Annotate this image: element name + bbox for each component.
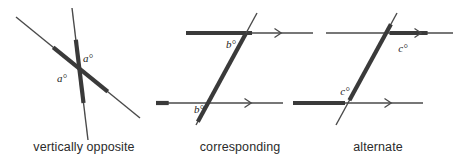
caption-vertically-opposite: vertically opposite <box>0 140 174 154</box>
panel-alternate: c°c° <box>293 13 453 125</box>
panel-corresponding: b°b° <box>156 13 313 125</box>
corresponding-angle-label-1: b° <box>226 38 237 50</box>
vertically-opposite-angle-label-1: a° <box>83 52 94 64</box>
caption-alternate: alternate <box>288 140 468 154</box>
diagram-canvas: a°a°b°b°c°c° <box>0 0 468 162</box>
corresponding-angle-label-2: b° <box>194 103 205 115</box>
geometry-figure: a°a°b°b°c°c° vertically oppositecorrespo… <box>0 0 468 162</box>
alternate-angle-label-2: c° <box>340 85 350 97</box>
vertically-opposite-angle-label-2: a° <box>57 72 68 84</box>
alternate-transversal-highlight <box>349 24 390 100</box>
panel-vertically-opposite: a°a° <box>16 8 140 140</box>
corresponding-transversal-highlight <box>198 33 246 121</box>
alternate-angle-label-1: c° <box>398 42 408 54</box>
